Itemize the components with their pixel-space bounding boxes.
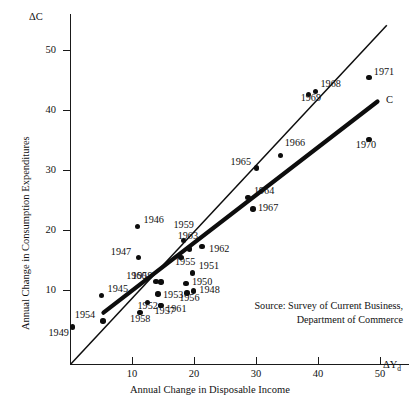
consumption-line-label: C [386,94,393,105]
data-point-1964 [245,195,250,200]
data-point-label-1954: 1954 [75,309,95,320]
data-point-1960 [153,279,158,284]
data-point-label-1955: 1955 [175,256,195,267]
data-point-1959-b [158,279,163,284]
data-point-1965 [254,165,259,170]
data-point-label-1970: 1970 [356,139,376,150]
data-point-label-1968: 1968 [321,78,341,89]
data-point-label-1950: 1950 [192,276,212,287]
data-point-1963 [187,246,192,251]
data-point-1953 [155,291,160,296]
data-point-1954 [100,318,105,323]
data-point-label-1962: 1962 [209,243,229,254]
chart-figure: ΔC ΔYd 50 40 30 20 10 10 20 30 40 50 Ann… [0,0,419,407]
data-point-label-1960: 1960 [126,270,146,281]
trend-lines-layer [0,0,419,407]
data-point-label-1951: 1951 [199,260,219,271]
data-point-1949 [70,324,75,329]
data-point-1971 [366,75,371,80]
data-point-label-1947: 1947 [111,246,131,257]
source-note: Source: Survey of Current Business, Depa… [120,299,403,326]
data-point-1950 [183,281,188,286]
data-point-label-1967: 1967 [258,202,278,213]
data-point-label-1971: 1971 [374,66,394,77]
source-note-line-1: Source: Survey of Current Business, [120,299,403,313]
data-point-label-1959: 1959 [173,219,193,230]
data-point-label-1949: 1949 [48,327,68,338]
data-point-label-1969: 1969 [301,92,321,103]
data-point-label-1963: 1963 [178,230,198,241]
data-point-label-1946: 1946 [144,214,164,225]
source-note-line-2: Department of Commerce [120,313,403,327]
data-point-label-1964: 1964 [254,185,274,196]
data-point-label-1965: 1965 [231,156,251,167]
data-point-label-1945: 1945 [108,283,128,294]
data-point-1967 [250,206,255,211]
data-point-label-1966: 1966 [285,137,305,148]
